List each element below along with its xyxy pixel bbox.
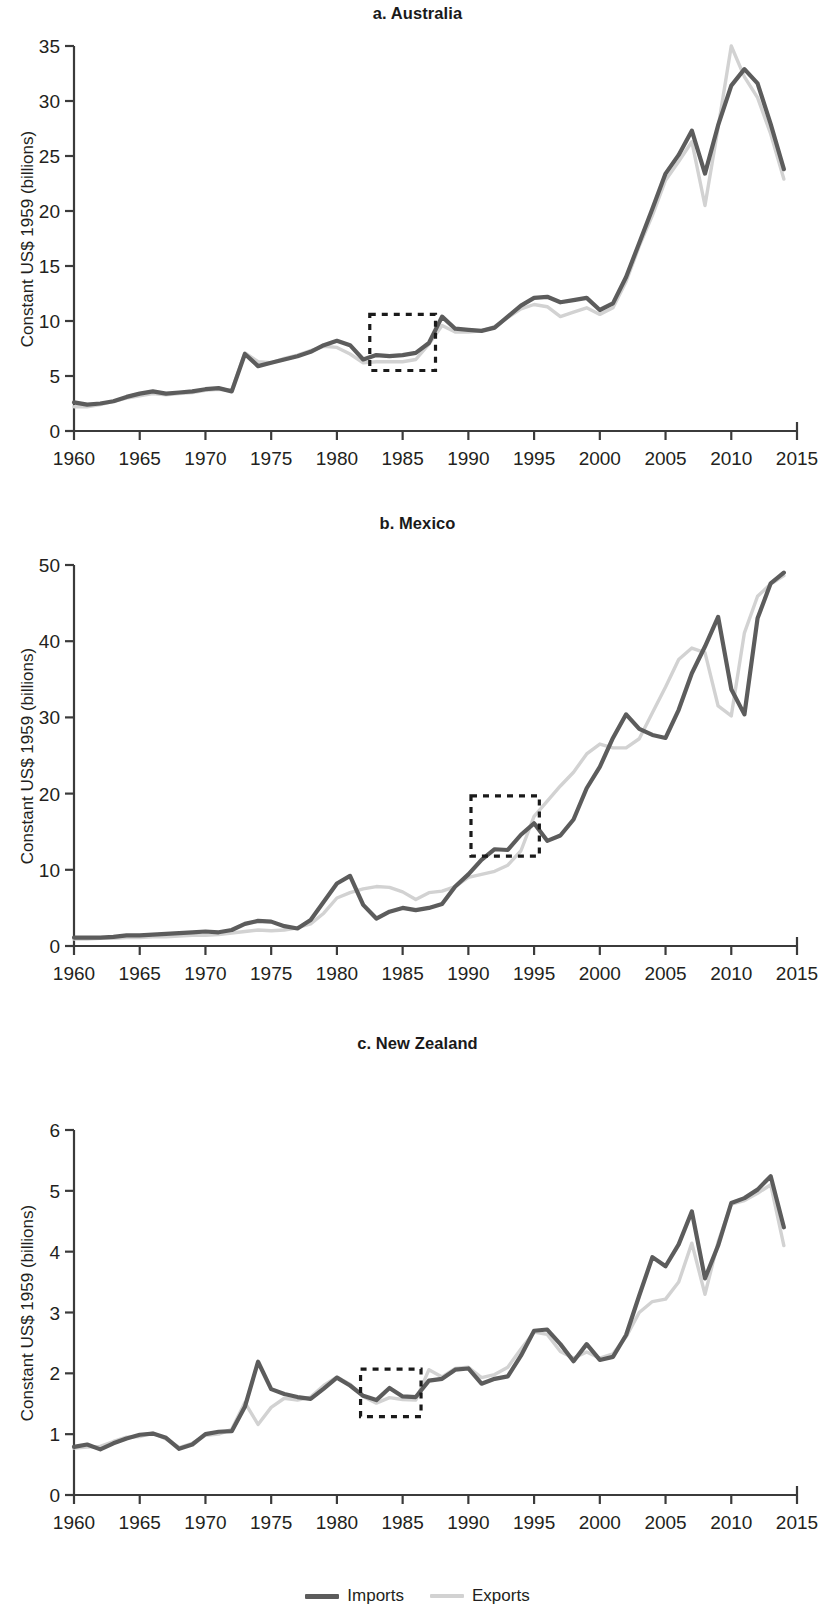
svg-text:10: 10 — [39, 311, 60, 332]
svg-text:0: 0 — [49, 936, 60, 957]
svg-text:10: 10 — [39, 860, 60, 881]
svg-text:1: 1 — [49, 1424, 60, 1445]
svg-text:20: 20 — [39, 201, 60, 222]
svg-text:2005: 2005 — [644, 1512, 686, 1533]
svg-text:2000: 2000 — [579, 1512, 621, 1533]
svg-text:1990: 1990 — [447, 1512, 489, 1533]
svg-text:0: 0 — [49, 1485, 60, 1506]
plot-area-new-zealand: 0123456196019651970197519801985199019952… — [0, 1030, 835, 1550]
legend-swatch-exports-icon — [430, 1594, 464, 1598]
chart-legend: Imports Exports — [0, 1586, 835, 1606]
svg-text:1980: 1980 — [316, 448, 358, 469]
svg-text:2015: 2015 — [776, 448, 818, 469]
svg-text:40: 40 — [39, 631, 60, 652]
legend-swatch-imports-icon — [305, 1594, 339, 1599]
svg-text:5: 5 — [49, 1181, 60, 1202]
plot-area-australia: 0510152025303519601965197019751980198519… — [0, 0, 835, 500]
svg-text:1985: 1985 — [381, 963, 423, 984]
svg-text:1965: 1965 — [119, 448, 161, 469]
svg-text:50: 50 — [39, 555, 60, 576]
svg-text:1990: 1990 — [447, 963, 489, 984]
svg-text:1980: 1980 — [316, 963, 358, 984]
plot-area-mexico: 0102030405019601965197019751980198519901… — [0, 510, 835, 1010]
svg-text:2010: 2010 — [710, 448, 752, 469]
svg-text:6: 6 — [49, 1120, 60, 1141]
legend-label-exports: Exports — [472, 1586, 530, 1606]
svg-text:1995: 1995 — [513, 1512, 555, 1533]
svg-text:2015: 2015 — [776, 963, 818, 984]
svg-text:2010: 2010 — [710, 1512, 752, 1533]
svg-text:1985: 1985 — [381, 1512, 423, 1533]
chart-panel-new-zealand: c. New Zealand Constant US$ 1959 (billio… — [0, 1030, 835, 1550]
legend-label-imports: Imports — [347, 1586, 404, 1606]
svg-text:3: 3 — [49, 1303, 60, 1324]
svg-text:15: 15 — [39, 256, 60, 277]
svg-text:20: 20 — [39, 784, 60, 805]
svg-text:4: 4 — [49, 1242, 60, 1263]
svg-text:5: 5 — [49, 366, 60, 387]
svg-text:2: 2 — [49, 1363, 60, 1384]
svg-text:30: 30 — [39, 91, 60, 112]
svg-text:2000: 2000 — [579, 963, 621, 984]
svg-text:1975: 1975 — [250, 1512, 292, 1533]
svg-text:2010: 2010 — [710, 963, 752, 984]
svg-text:1970: 1970 — [184, 963, 226, 984]
svg-text:1960: 1960 — [53, 963, 95, 984]
svg-text:1970: 1970 — [184, 1512, 226, 1533]
svg-text:2005: 2005 — [644, 963, 686, 984]
legend-item-imports: Imports — [305, 1586, 404, 1606]
svg-text:1990: 1990 — [447, 448, 489, 469]
svg-text:1960: 1960 — [53, 1512, 95, 1533]
svg-text:1960: 1960 — [53, 448, 95, 469]
svg-text:1975: 1975 — [250, 963, 292, 984]
svg-text:1980: 1980 — [316, 1512, 358, 1533]
svg-text:1985: 1985 — [381, 448, 423, 469]
svg-text:1995: 1995 — [513, 448, 555, 469]
svg-text:25: 25 — [39, 146, 60, 167]
svg-text:2000: 2000 — [579, 448, 621, 469]
svg-text:35: 35 — [39, 36, 60, 57]
svg-text:0: 0 — [49, 421, 60, 442]
figure-trade-imports-exports: a. Australia Constant US$ 1959 (billions… — [0, 0, 835, 1619]
svg-text:30: 30 — [39, 707, 60, 728]
chart-panel-australia: a. Australia Constant US$ 1959 (billions… — [0, 0, 835, 500]
svg-text:1975: 1975 — [250, 448, 292, 469]
svg-text:1965: 1965 — [119, 963, 161, 984]
svg-text:2005: 2005 — [644, 448, 686, 469]
svg-text:2015: 2015 — [776, 1512, 818, 1533]
svg-text:1965: 1965 — [119, 1512, 161, 1533]
svg-text:1970: 1970 — [184, 448, 226, 469]
svg-text:1995: 1995 — [513, 963, 555, 984]
legend-item-exports: Exports — [430, 1586, 530, 1606]
chart-panel-mexico: b. Mexico Constant US$ 1959 (billions) 0… — [0, 510, 835, 1010]
